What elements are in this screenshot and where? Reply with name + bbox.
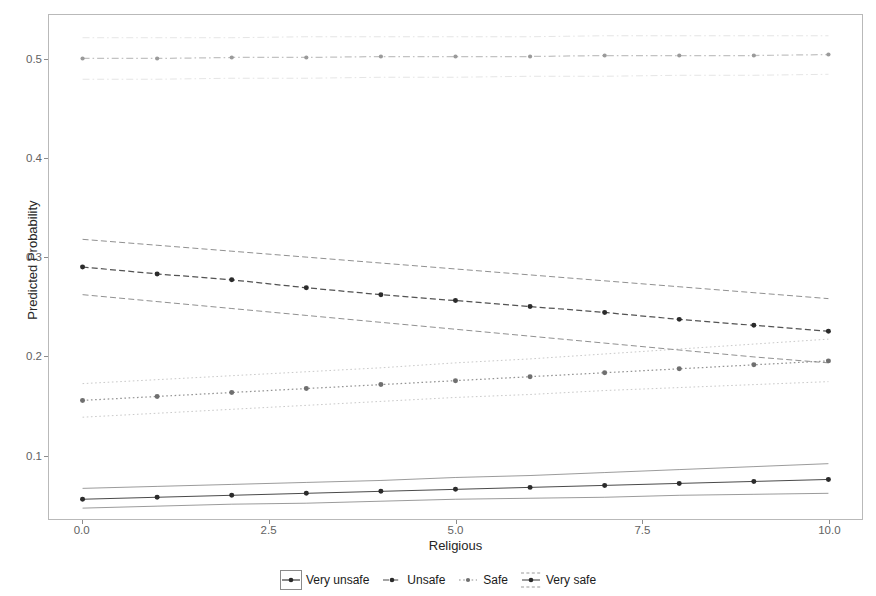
data-point (751, 323, 756, 328)
confidence-band-lower (83, 74, 829, 79)
y-tick-label: 0.2 (8, 350, 42, 362)
confidence-band-lower (83, 382, 829, 418)
plot-area (49, 15, 862, 519)
confidence-band-upper (83, 339, 829, 383)
y-tick-label: 0.3 (8, 251, 42, 263)
data-point (751, 362, 756, 367)
data-point (752, 53, 756, 57)
data-point (826, 52, 830, 56)
legend-entry-unsafe[interactable]: Unsafe (381, 570, 445, 590)
confidence-band-lower (83, 493, 829, 508)
data-point (528, 54, 532, 58)
confidence-band-upper (83, 239, 829, 298)
data-point (826, 477, 831, 482)
x-tick-label: 2.5 (239, 524, 299, 536)
x-tick-mark (456, 520, 457, 524)
data-point (528, 485, 533, 490)
y-tick-mark (44, 257, 48, 258)
data-point (230, 55, 234, 59)
data-point (453, 54, 457, 58)
legend-entry-very-unsafe[interactable]: Very unsafe (280, 570, 369, 590)
confidence-band-upper (83, 36, 829, 38)
legend-entry-very-safe[interactable]: Very safe (520, 570, 596, 590)
x-tick-mark (269, 520, 270, 524)
data-point (677, 366, 682, 371)
y-tick-label: 0.4 (8, 152, 42, 164)
data-point (229, 390, 234, 395)
x-tick-label: 10.0 (799, 524, 859, 536)
data-point (229, 277, 234, 282)
data-point (826, 358, 831, 363)
data-point (602, 310, 607, 315)
x-axis-title: Religious (48, 538, 863, 553)
x-tick-mark (82, 520, 83, 524)
data-point (602, 483, 607, 488)
legend-label: Unsafe (407, 573, 445, 587)
data-point (528, 304, 533, 309)
legend-label: Safe (483, 573, 508, 587)
line-key-solid-icon (280, 570, 302, 590)
legend-label: Very safe (546, 573, 596, 587)
chart-legend: Very unsafeUnsafeSafeVery safe (0, 566, 876, 594)
data-point (677, 481, 682, 486)
y-tick-label: 0.1 (8, 450, 42, 462)
legend-entry-safe[interactable]: Safe (457, 570, 508, 590)
data-point (80, 497, 85, 502)
line-key-dotted-icon (457, 570, 479, 590)
data-point (155, 495, 160, 500)
line-key-dashed-icon (381, 570, 403, 590)
x-tick-mark (642, 520, 643, 524)
plot-panel (48, 14, 863, 520)
data-point (304, 285, 309, 290)
data-point (826, 329, 831, 334)
line-key-dashdot-icon (520, 570, 542, 590)
data-point (751, 479, 756, 484)
data-point (378, 292, 383, 297)
x-tick-label: 0.0 (52, 524, 112, 536)
series-unsafe (80, 239, 831, 363)
series-safe (80, 339, 831, 417)
data-point (155, 56, 159, 60)
series-very-safe (80, 36, 830, 79)
y-tick-mark (44, 59, 48, 60)
x-tick-label: 7.5 (612, 524, 672, 536)
y-tick-mark (44, 456, 48, 457)
data-point (155, 394, 160, 399)
data-point (304, 55, 308, 59)
y-tick-mark (44, 356, 48, 357)
data-point (229, 493, 234, 498)
data-point (378, 382, 383, 387)
data-point (603, 53, 607, 57)
data-point (80, 265, 85, 270)
confidence-band-upper (83, 464, 829, 489)
data-point (304, 386, 309, 391)
data-point (528, 374, 533, 379)
data-point (453, 487, 458, 492)
x-tick-label: 5.0 (426, 524, 486, 536)
data-point (80, 398, 85, 403)
x-tick-mark (829, 520, 830, 524)
data-point (677, 317, 682, 322)
data-point (602, 370, 607, 375)
data-point (80, 56, 84, 60)
y-tick-mark (44, 158, 48, 159)
confidence-band-lower (83, 295, 829, 363)
data-point (304, 491, 309, 496)
series-very-unsafe (80, 464, 831, 508)
legend-label: Very unsafe (306, 573, 369, 587)
y-axis-tick-labels: 0.10.20.30.40.5 (0, 0, 42, 596)
data-point (155, 271, 160, 276)
data-point (379, 54, 383, 58)
y-tick-label: 0.5 (8, 53, 42, 65)
data-point (378, 489, 383, 494)
data-point (677, 53, 681, 57)
data-point (453, 378, 458, 383)
chart-figure: Predicted Probability 0.10.20.30.40.5 0.… (0, 0, 876, 596)
data-point (453, 298, 458, 303)
